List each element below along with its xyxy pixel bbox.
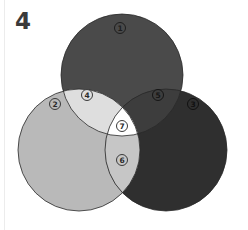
region-label-4: 4 [82,90,93,101]
svg-text:1: 1 [117,24,122,33]
svg-text:4: 4 [84,91,89,100]
region-label-1: 1 [115,23,126,34]
svg-text:2: 2 [52,100,57,109]
region-label-3: 3 [188,99,199,110]
svg-text:5: 5 [155,91,160,100]
region-label-6: 6 [117,155,128,166]
svg-text:3: 3 [190,100,195,109]
region-label-2: 2 [50,99,61,110]
region-label-7: 7 [117,121,128,132]
venn-diagram: 1234567 [0,0,248,230]
region-label-5: 5 [153,90,164,101]
svg-text:6: 6 [119,156,124,165]
svg-text:7: 7 [119,122,124,131]
